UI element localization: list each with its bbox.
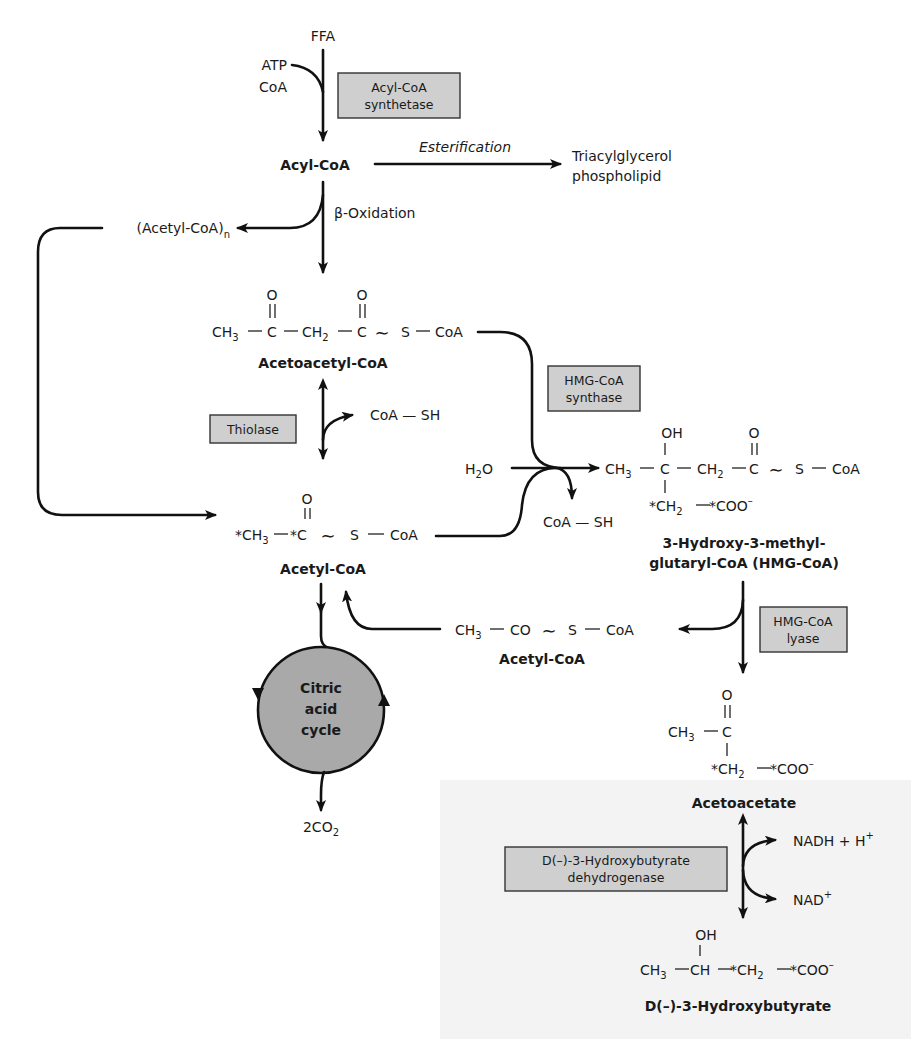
svg-text:Acyl-CoA: Acyl-CoA <box>371 80 427 95</box>
acetyl-coa-label: Acetyl-CoA <box>280 561 366 577</box>
arrow-to-acetyl-coa-n <box>238 195 323 228</box>
svg-text:D(–)-3-Hydroxybutyrate: D(–)-3-Hydroxybutyrate <box>542 853 690 868</box>
ketogenesis-diagram: FFA ATP CoA Acyl-CoA synthetase Acyl-CoA… <box>0 0 911 1039</box>
svg-text:S: S <box>795 461 804 477</box>
svg-text:O: O <box>301 491 312 507</box>
acyl-coa-label: Acyl-CoA <box>280 157 350 173</box>
svg-text:*COO–: *COO– <box>770 758 814 777</box>
svg-text:CH3: CH3 <box>605 461 632 480</box>
svg-text:synthetase: synthetase <box>364 97 433 112</box>
phospholipid-label: phospholipid <box>572 168 661 184</box>
acetoacetyl-coa-structure: O O CH3 C CH2 C ∼ S CoA <box>212 287 463 343</box>
acetoacetate-label: Acetoacetate <box>692 795 797 811</box>
svg-text:OH: OH <box>695 927 717 943</box>
svg-text:S: S <box>401 324 410 340</box>
arrow-coa-sh-synthase-release <box>556 468 572 498</box>
svg-text:HMG-CoA: HMG-CoA <box>564 373 624 388</box>
svg-text:∼: ∼ <box>374 322 389 343</box>
svg-text:S: S <box>350 527 359 543</box>
enzyme-hmg-coa-synthase: HMG-CoA synthase <box>548 366 640 411</box>
acetoacetyl-coa-label: Acetoacetyl-CoA <box>258 355 388 371</box>
svg-text:*CH2: *CH2 <box>649 498 683 517</box>
svg-text:CoA: CoA <box>606 622 634 638</box>
svg-text:C: C <box>660 461 670 477</box>
svg-text:dehydrogenase: dehydrogenase <box>568 870 665 885</box>
svg-text:OH: OH <box>661 425 683 441</box>
released-acetyl-coa-label: Acetyl-CoA <box>499 651 585 667</box>
esterification-label: Esterification <box>419 139 511 155</box>
acetyl-coa-n-label: (Acetyl-CoA)n <box>136 220 230 240</box>
svg-text:CO: CO <box>510 622 531 638</box>
svg-text:O: O <box>721 687 732 703</box>
svg-text:CH2: CH2 <box>302 324 329 343</box>
nadh-label: NADH + H+ <box>793 830 874 849</box>
svg-text:O: O <box>748 425 759 441</box>
svg-text:Citric: Citric <box>300 680 342 696</box>
svg-text:*CH3: *CH3 <box>235 527 269 546</box>
svg-text:C: C <box>722 724 732 740</box>
atp-coa-input-curve <box>292 65 323 92</box>
svg-text:cycle: cycle <box>301 722 341 738</box>
hmg-coa-label-line2: glutaryl-CoA (HMG-CoA) <box>649 555 839 571</box>
h2o-label: H2O <box>465 461 493 480</box>
enzyme-hmg-coa-lyase: HMG-CoA lyase <box>760 607 847 652</box>
arrow-release-acetyl-coa <box>680 600 743 629</box>
arrow-co2-release <box>321 772 324 810</box>
svg-text:C: C <box>749 461 759 477</box>
svg-text:CoA: CoA <box>832 461 860 477</box>
acetoacetate-structure: O CH3 C *CH2 *COO– <box>668 687 814 780</box>
svg-text:∼: ∼ <box>320 525 335 546</box>
arrow-acetyl-coa-n-loop <box>38 228 215 515</box>
citric-acid-cycle: Citric acid cycle <box>252 647 390 773</box>
svg-text:∼: ∼ <box>541 620 556 641</box>
svg-text:acid: acid <box>305 701 338 717</box>
svg-text:CoA: CoA <box>435 324 463 340</box>
svg-text:synthase: synthase <box>566 390 623 405</box>
svg-text:O: O <box>266 287 277 303</box>
svg-text:C: C <box>357 324 367 340</box>
svg-text:CoA: CoA <box>390 527 418 543</box>
svg-text:*CH2: *CH2 <box>711 761 745 780</box>
tca-entry-line <box>321 612 328 648</box>
svg-text:*COO–: *COO– <box>709 495 753 514</box>
svg-text:∼: ∼ <box>768 459 783 480</box>
arrow-acetyl-coa-to-hmg-coa <box>436 468 556 536</box>
svg-text:CH: CH <box>690 962 710 978</box>
svg-text:Thiolase: Thiolase <box>226 422 279 437</box>
svg-text:*C: *C <box>290 527 307 543</box>
hmg-coa-label-line1: 3-Hydroxy-3-methyl- <box>663 535 826 551</box>
released-acetyl-coa-structure: CH3 CO ∼ S CoA <box>455 620 634 641</box>
svg-text:CH2: CH2 <box>697 461 724 480</box>
enzyme-acyl-coa-synthetase: Acyl-CoA synthetase <box>338 73 460 118</box>
svg-text:lyase: lyase <box>787 631 820 646</box>
svg-text:C: C <box>267 324 277 340</box>
arrow-coa-sh-release <box>323 415 352 440</box>
svg-text:O: O <box>356 287 367 303</box>
enzyme-hydroxybutyrate-dehydrogenase: D(–)-3-Hydroxybutyrate dehydrogenase <box>505 847 727 891</box>
arrow-acetyl-coa-return <box>346 592 440 629</box>
triacylglycerol-label: Triacylglycerol <box>571 148 672 164</box>
co2-label: 2CO2 <box>303 819 339 838</box>
acetyl-coa-structure: O *CH3 *C ∼ S CoA <box>235 491 418 546</box>
enzyme-thiolase: Thiolase <box>210 415 296 443</box>
svg-text:S: S <box>568 622 577 638</box>
svg-text:HMG-CoA: HMG-CoA <box>773 614 833 629</box>
hydroxybutyrate-label: D(–)-3-Hydroxybutyrate <box>645 998 832 1014</box>
ffa-label: FFA <box>311 28 336 44</box>
coa-label: CoA <box>259 79 287 95</box>
svg-text:CH3: CH3 <box>212 324 239 343</box>
coa-sh-synthase-label: CoA — SH <box>543 514 613 530</box>
coa-sh-thiolase-label: CoA — SH <box>370 407 440 423</box>
atp-label: ATP <box>262 57 287 73</box>
svg-text:CH3: CH3 <box>668 724 695 743</box>
svg-text:CH3: CH3 <box>455 622 482 641</box>
svg-text:*COO–: *COO– <box>790 959 834 978</box>
hmg-coa-structure: OH O CH3 C CH2 C ∼ S CoA *CH2 *COO– <box>605 425 860 517</box>
ffa-activation: FFA ATP CoA Acyl-CoA synthetase <box>259 28 460 140</box>
beta-oxidation-label: β-Oxidation <box>334 205 415 221</box>
